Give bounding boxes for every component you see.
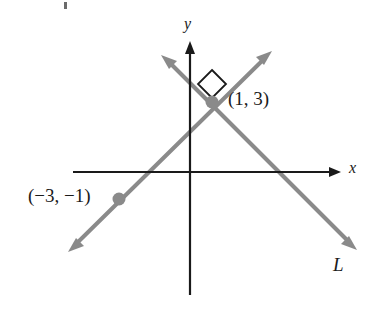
line-L-label: L [333, 255, 344, 274]
perpendicular-line-shaft [76, 58, 265, 244]
diagram-canvas [0, 0, 377, 315]
x-axis-label: x [349, 160, 356, 176]
second-point-label: (−3, −1) [28, 186, 91, 205]
x-axis-arrow [329, 167, 341, 177]
intersection-point-dot [206, 96, 219, 109]
perpendicular-line [68, 51, 272, 252]
intersection-point-label: (1, 3) [228, 89, 269, 108]
y-axis-label: y [184, 16, 191, 32]
x-axis [73, 167, 341, 177]
y-axis-arrow [185, 41, 195, 54]
second-point-dot [113, 193, 126, 206]
geometry-figure: y x L (1, 3) (−3, −1) [0, 0, 377, 315]
